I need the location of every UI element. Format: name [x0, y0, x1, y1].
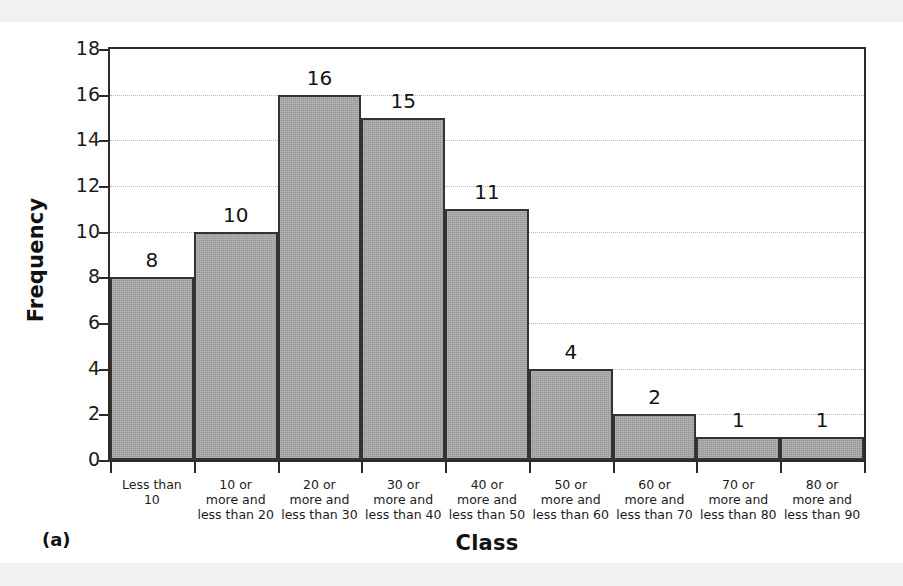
x-tick-label-line: less than 70	[613, 507, 697, 522]
x-tick-label-line: less than 20	[194, 507, 278, 522]
bars-layer	[110, 49, 864, 460]
x-tick-label-line: less than 60	[529, 507, 613, 522]
x-tick-label-line: less than 80	[696, 507, 780, 522]
x-tick-label-line: more and	[613, 492, 697, 507]
y-tick-mark-12	[99, 186, 108, 188]
x-tick-label-line: 50 or	[529, 477, 613, 492]
x-tick-label-line: more and	[696, 492, 780, 507]
bar	[110, 277, 194, 460]
y-tick-label-14: 14	[60, 130, 100, 149]
x-tick-mark	[445, 462, 447, 473]
bar	[613, 414, 697, 460]
x-tick-mark	[278, 462, 280, 473]
y-tick-mark-14	[99, 140, 108, 142]
bar	[361, 118, 445, 461]
x-tick-label: 70 ormore andless than 80	[696, 477, 780, 522]
bar	[445, 209, 529, 460]
x-tick-label-line: more and	[361, 492, 445, 507]
y-axis-tick-labels: 024681012141618	[48, 0, 100, 586]
x-tick-label: 80 ormore andless than 90	[780, 477, 864, 522]
page: 024681012141618 Frequency Less than1010 …	[0, 0, 903, 586]
x-tick-label-line: more and	[278, 492, 362, 507]
x-tick-label-line: Less than	[110, 477, 194, 492]
bar-value-label: 16	[278, 68, 362, 88]
x-tick-label: 10 ormore andless than 20	[194, 477, 278, 522]
y-tick-label-10: 10	[60, 222, 100, 241]
x-tick-mark	[529, 462, 531, 473]
bar-value-label: 1	[780, 410, 864, 430]
x-tick-label-line: less than 40	[361, 507, 445, 522]
x-tick-label-line: more and	[194, 492, 278, 507]
bar-value-label: 8	[110, 250, 194, 270]
x-tick-mark	[864, 462, 866, 473]
x-axis-tick-labels: Less than1010 ormore andless than 2020 o…	[108, 477, 866, 537]
y-tick-mark-8	[99, 277, 108, 279]
x-tick-mark	[780, 462, 782, 473]
bar-value-label: 1	[696, 410, 780, 430]
x-tick-mark	[110, 462, 112, 473]
x-tick-label-line: 70 or	[696, 477, 780, 492]
y-tick-label-8: 8	[60, 267, 100, 286]
bar	[529, 369, 613, 460]
x-tick-label: 50 ormore andless than 60	[529, 477, 613, 522]
x-tick-label: 60 ormore andless than 70	[613, 477, 697, 522]
y-tick-label-6: 6	[60, 313, 100, 332]
y-tick-label-18: 18	[60, 39, 100, 58]
x-tick-label-line: 40 or	[445, 477, 529, 492]
bar-value-label: 15	[361, 91, 445, 111]
y-tick-label-0: 0	[60, 450, 100, 469]
y-tick-label-4: 4	[60, 359, 100, 378]
x-tick-label-line: more and	[445, 492, 529, 507]
x-tick-label: Less than10	[110, 477, 194, 507]
x-tick-label-line: less than 30	[278, 507, 362, 522]
x-tick-label-line: less than 50	[445, 507, 529, 522]
bar-value-label: 4	[529, 342, 613, 362]
x-tick-label-line: 60 or	[613, 477, 697, 492]
y-tick-mark-16	[99, 95, 108, 97]
bar-value-label: 11	[445, 182, 529, 202]
x-tick-mark	[361, 462, 363, 473]
y-tick-mark-6	[99, 323, 108, 325]
x-tick-label-line: 10	[110, 492, 194, 507]
histogram-figure: 024681012141618 Frequency Less than1010 …	[0, 0, 903, 586]
bar-value-label: 10	[194, 205, 278, 225]
x-tick-label-line: more and	[780, 492, 864, 507]
y-tick-mark-0	[99, 460, 108, 462]
bar	[194, 232, 278, 460]
x-tick-label-line: 80 or	[780, 477, 864, 492]
y-tick-mark-18	[99, 49, 108, 51]
x-tick-label-line: 10 or	[194, 477, 278, 492]
x-tick-label-line: 30 or	[361, 477, 445, 492]
x-axis-title: Class	[108, 531, 866, 555]
y-tick-label-12: 12	[60, 176, 100, 195]
x-tick-mark	[696, 462, 698, 473]
y-tick-mark-2	[99, 414, 108, 416]
x-tick-label: 30 ormore andless than 40	[361, 477, 445, 522]
x-tick-label: 20 ormore andless than 30	[278, 477, 362, 522]
bar	[278, 95, 362, 460]
x-tick-label-line: less than 90	[780, 507, 864, 522]
bar	[696, 437, 780, 460]
y-tick-label-16: 16	[60, 85, 100, 104]
x-tick-label-line: more and	[529, 492, 613, 507]
bar-value-label: 2	[613, 387, 697, 407]
figure-caption: (a)	[42, 529, 71, 550]
x-tick-mark	[194, 462, 196, 473]
x-tick-mark	[613, 462, 615, 473]
y-tick-mark-4	[99, 369, 108, 371]
x-tick-label-line: 20 or	[278, 477, 362, 492]
y-tick-mark-10	[99, 232, 108, 234]
x-tick-label: 40 ormore andless than 50	[445, 477, 529, 522]
y-axis-title: Frequency	[24, 190, 48, 330]
y-tick-label-2: 2	[60, 404, 100, 423]
bar	[780, 437, 864, 460]
